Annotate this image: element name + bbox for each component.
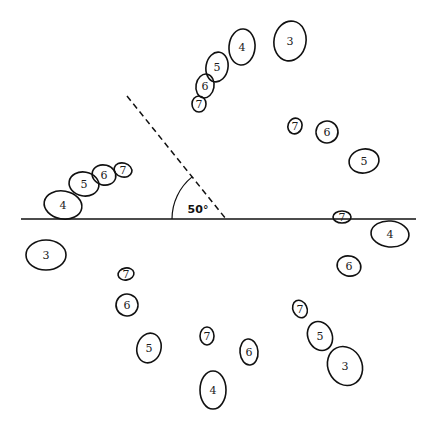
ellipse-number: 6 <box>246 346 253 359</box>
ellipse-lowleft-5: 5 <box>134 330 165 365</box>
ellipse-lowmid-6: 6 <box>239 338 259 365</box>
ellipse-top-3: 3 <box>271 19 309 64</box>
ellipse-number: 5 <box>146 342 153 355</box>
ellipse-number: 6 <box>346 260 353 273</box>
ellipse-number: 7 <box>339 211 346 224</box>
ellipse-number: 3 <box>342 360 349 373</box>
ellipse-lowright-7: 7 <box>290 298 310 320</box>
ellipse-number: 7 <box>196 98 203 111</box>
ellipse-number: 5 <box>214 61 221 74</box>
ellipse-top-6: 6 <box>194 73 216 100</box>
ellipse-right-6b: 6 <box>335 253 363 279</box>
ellipse-lowmid-4: 4 <box>200 371 226 409</box>
ellipse-number: 7 <box>297 303 304 316</box>
ellipse-number: 4 <box>239 41 246 54</box>
ellipse-right-7a: 7 <box>286 116 305 136</box>
ellipse-number: 7 <box>204 330 211 343</box>
ellipse-number: 4 <box>210 384 217 397</box>
ellipse-number: 4 <box>387 228 394 241</box>
ellipse-number: 4 <box>60 199 67 212</box>
ellipse-number: 7 <box>123 268 130 281</box>
ellipse-number: 5 <box>317 330 324 343</box>
angle-label: 50° <box>188 203 209 216</box>
ellipse-number: 7 <box>292 120 299 133</box>
ellipse-number: 6 <box>123 299 130 312</box>
ellipse-top-7: 7 <box>192 96 206 112</box>
ellipse-top-4: 4 <box>227 28 256 66</box>
ellipse-number: 5 <box>361 155 368 168</box>
dashed-angle-line <box>127 96 226 219</box>
ellipse-right-6a: 6 <box>313 118 341 146</box>
ellipse-number: 3 <box>287 35 294 48</box>
ellipse-lowright-5: 5 <box>303 317 337 354</box>
ellipse-number: 3 <box>43 249 50 262</box>
ellipse-number: 6 <box>202 80 209 93</box>
diagram-canvas: 50° 3456745673765746765764753 <box>0 0 437 431</box>
ellipse-right-5: 5 <box>347 147 381 176</box>
ellipse-lowleft-6: 6 <box>113 291 141 319</box>
ellipse-right-7b: 7 <box>333 211 351 224</box>
ellipse-number: 6 <box>101 169 108 182</box>
ellipse-number: 7 <box>120 164 127 177</box>
ellipse-lowleft-7: 7 <box>117 266 135 283</box>
ellipse-lowmid-7: 7 <box>200 327 214 345</box>
ellipse-number: 6 <box>324 126 331 139</box>
ellipse-right-4: 4 <box>370 219 410 248</box>
ellipse-number: 5 <box>81 178 88 191</box>
ellipse-left-3: 3 <box>26 240 66 270</box>
ellipse-group: 3456745673765746765764753 <box>26 19 410 409</box>
ellipse-left-4: 4 <box>42 188 84 222</box>
ellipse-top-5: 5 <box>204 50 231 83</box>
